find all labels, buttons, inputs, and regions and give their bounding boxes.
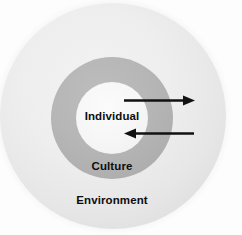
- concentric-circles-diagram: Individual Culture Environment: [0, 0, 242, 235]
- arrow-left-icon: [124, 128, 194, 138]
- arrows-layer: [0, 0, 242, 235]
- arrow-right-icon: [124, 95, 195, 105]
